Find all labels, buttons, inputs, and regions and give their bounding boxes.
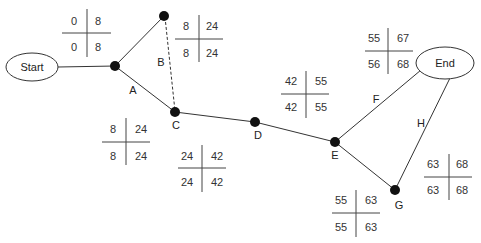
label-H: H bbox=[417, 117, 425, 129]
svg-text:55: 55 bbox=[335, 221, 347, 233]
edge-A bbox=[115, 66, 175, 112]
svg-text:68: 68 bbox=[456, 184, 468, 196]
start-label: Start bbox=[20, 61, 43, 73]
svg-text:55: 55 bbox=[335, 194, 347, 206]
event-node-1 bbox=[110, 61, 120, 71]
svg-text:63: 63 bbox=[427, 158, 439, 170]
time-table-1: 0 8 0 8 bbox=[62, 9, 111, 57]
time-table-2: 8 24 8 24 bbox=[175, 15, 223, 62]
svg-text:63: 63 bbox=[365, 194, 377, 206]
svg-text:55: 55 bbox=[315, 75, 327, 87]
svg-text:0: 0 bbox=[71, 41, 77, 53]
label-F: F bbox=[373, 93, 380, 105]
svg-text:68: 68 bbox=[397, 58, 409, 70]
svg-text:67: 67 bbox=[397, 32, 409, 44]
label-A: A bbox=[129, 84, 137, 96]
edge-H bbox=[395, 78, 450, 190]
event-node-C bbox=[170, 107, 180, 117]
svg-text:24: 24 bbox=[181, 150, 193, 162]
svg-text:42: 42 bbox=[285, 75, 297, 87]
edge-C bbox=[175, 112, 255, 122]
svg-text:42: 42 bbox=[285, 101, 297, 113]
svg-text:68: 68 bbox=[456, 158, 468, 170]
svg-text:8: 8 bbox=[110, 123, 116, 135]
time-table-6: 55 67 56 68 bbox=[365, 28, 413, 74]
time-table-3: 8 24 8 24 bbox=[102, 118, 150, 165]
svg-text:63: 63 bbox=[427, 184, 439, 196]
time-table-8: 55 63 55 63 bbox=[332, 190, 380, 237]
edge-E bbox=[335, 142, 395, 190]
edge-F bbox=[335, 70, 421, 142]
svg-text:8: 8 bbox=[183, 47, 189, 59]
svg-text:8: 8 bbox=[183, 20, 189, 32]
edge-D bbox=[255, 122, 335, 142]
svg-text:24: 24 bbox=[135, 123, 147, 135]
event-node-B bbox=[159, 11, 169, 21]
event-node-E bbox=[330, 137, 340, 147]
label-E: E bbox=[331, 149, 338, 161]
svg-text:55: 55 bbox=[368, 32, 380, 44]
svg-text:8: 8 bbox=[95, 15, 101, 27]
svg-text:42: 42 bbox=[211, 150, 223, 162]
time-table-4: 24 42 24 42 bbox=[178, 145, 226, 192]
edge-B-dashed bbox=[165, 17, 175, 111]
svg-text:8: 8 bbox=[110, 150, 116, 162]
svg-text:8: 8 bbox=[95, 41, 101, 53]
time-table-5: 42 55 42 55 bbox=[281, 71, 329, 118]
label-D: D bbox=[254, 129, 262, 141]
svg-text:56: 56 bbox=[368, 58, 380, 70]
label-G: G bbox=[395, 199, 404, 211]
svg-text:24: 24 bbox=[135, 150, 147, 162]
event-node-G bbox=[390, 185, 400, 195]
svg-text:42: 42 bbox=[211, 176, 223, 188]
svg-text:24: 24 bbox=[206, 20, 218, 32]
label-B: B bbox=[157, 56, 164, 68]
end-label: End bbox=[435, 57, 455, 69]
svg-text:55: 55 bbox=[315, 101, 327, 113]
label-C: C bbox=[172, 119, 180, 131]
time-table-7: 63 68 63 68 bbox=[424, 154, 472, 200]
svg-text:24: 24 bbox=[181, 176, 193, 188]
svg-text:63: 63 bbox=[365, 221, 377, 233]
edge-start-to-n1 bbox=[58, 66, 115, 67]
svg-text:0: 0 bbox=[71, 15, 77, 27]
svg-text:24: 24 bbox=[206, 47, 218, 59]
network-diagram: Start End A B C D E F G H 0 8 0 8 8 24 8… bbox=[0, 0, 481, 243]
event-node-D bbox=[250, 117, 260, 127]
